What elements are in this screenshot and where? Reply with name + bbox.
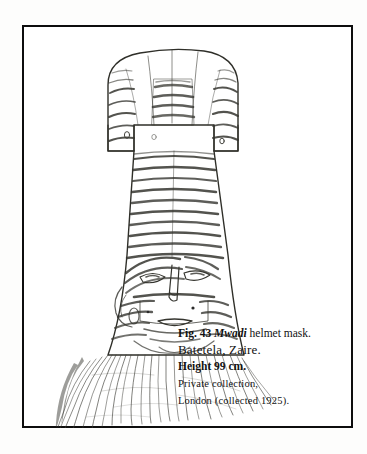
caption-object-name: Mwadi — [214, 327, 247, 339]
caption-title-line: Fig. 43 Mwadi helmet mask. — [178, 325, 346, 341]
caption-credit: Private collection, — [178, 375, 346, 392]
caption-title-rest: helmet mask. — [250, 327, 311, 339]
figure-plate-page: Fig. 43 Mwadi helmet mask. Batetela, Zai… — [0, 0, 367, 454]
caption-height: Height 99 cm. — [178, 358, 346, 375]
caption-origin: Batetela, Zaire. — [178, 341, 346, 358]
caption-figure-number: Fig. 43 — [178, 327, 211, 339]
caption-provenance: London (collected 1925). — [178, 392, 346, 409]
figure-caption: Fig. 43 Mwadi helmet mask. Batetela, Zai… — [178, 325, 346, 409]
